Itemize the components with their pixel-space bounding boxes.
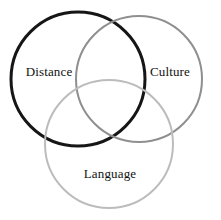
figure-background	[0, 0, 221, 220]
venn-circles-canvas	[0, 0, 221, 220]
venn-label-culture: Culture	[150, 65, 190, 78]
venn-diagram-figure: Distance Culture Language	[0, 0, 221, 220]
venn-label-distance: Distance	[26, 65, 73, 78]
venn-label-language: Language	[84, 167, 136, 180]
